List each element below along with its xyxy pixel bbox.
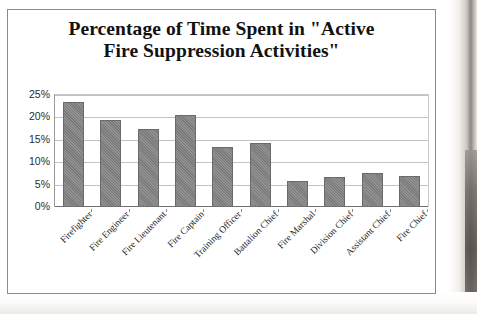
scan-bottom-edge-shadow xyxy=(0,292,477,314)
bar xyxy=(362,173,383,207)
x-axis-tickmark xyxy=(352,209,353,212)
y-axis-tick-label: 15% xyxy=(14,133,50,145)
x-axis-tickmark xyxy=(91,209,92,212)
y-axis-tick-label: 20% xyxy=(14,110,50,122)
y-axis: 25%20%15%10%5%0% xyxy=(12,10,50,295)
bar xyxy=(287,181,308,207)
y-axis-tick-label: 10% xyxy=(14,155,50,167)
chart-container: Percentage of Time Spent in "Active Fire… xyxy=(7,9,436,294)
x-axis-category-label: Fire Captain xyxy=(165,209,205,249)
plot-area xyxy=(54,94,429,207)
y-axis-tick-label: 5% xyxy=(14,178,50,190)
x-axis-category-label: Firefighter xyxy=(58,209,94,245)
x-axis-tickmark xyxy=(203,209,204,212)
y-axis-tick-label: 25% xyxy=(14,88,50,100)
bar-series xyxy=(55,95,428,207)
x-axis-tickmark xyxy=(315,209,316,212)
x-axis-tickmark xyxy=(278,209,279,212)
x-axis-tickmark xyxy=(166,209,167,212)
x-axis-tickmark xyxy=(241,209,242,212)
scan-right-dark-strip xyxy=(465,150,477,314)
x-axis-tickmark xyxy=(390,209,391,212)
bar xyxy=(100,120,121,207)
bar xyxy=(175,115,196,207)
bar xyxy=(250,143,271,207)
bar xyxy=(138,129,159,207)
bar xyxy=(212,147,233,207)
bar xyxy=(63,102,84,207)
x-axis-tickmark xyxy=(129,209,130,212)
x-axis-line xyxy=(55,206,428,207)
bar xyxy=(324,177,345,207)
x-axis-tickmark xyxy=(427,209,428,212)
y-axis-tick-label: 0% xyxy=(14,200,50,212)
plot-wrapper: 25%20%15%10%5%0% FirefighterFire Enginee… xyxy=(8,10,437,295)
x-axis-category-label: Fire Chief xyxy=(395,209,430,244)
bar xyxy=(399,176,420,207)
x-axis-labels: FirefighterFire EngineerFire LieutenantF… xyxy=(54,209,427,289)
